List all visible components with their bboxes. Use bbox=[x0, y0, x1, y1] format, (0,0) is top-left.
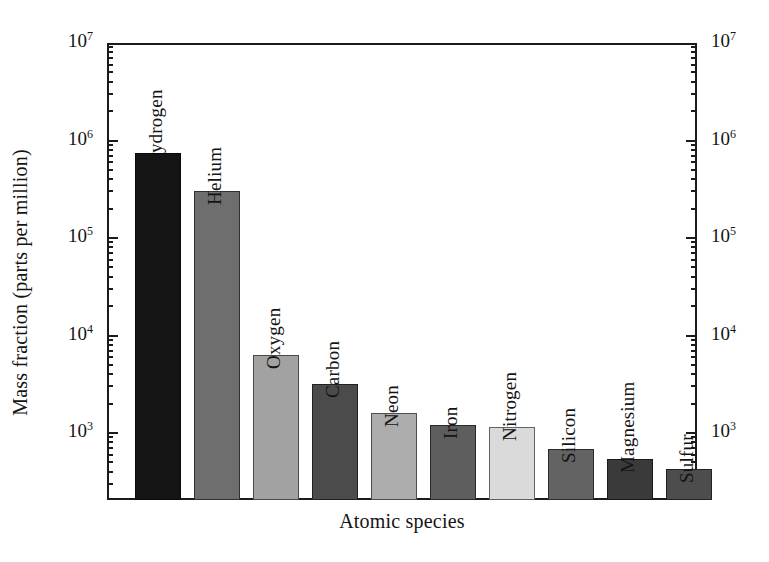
tick-mantissa: 10 bbox=[68, 225, 87, 246]
bar-label-iron: Iron bbox=[440, 407, 462, 439]
figure-root: 107107106106105105104104103103 HydrogenH… bbox=[0, 0, 769, 562]
tick-mantissa: 10 bbox=[68, 323, 87, 344]
y-axis-tick-label-left-4: 103 bbox=[0, 420, 93, 442]
tick-mantissa: 10 bbox=[711, 225, 730, 246]
bar-helium[interactable] bbox=[194, 191, 240, 500]
tick-exponent: 5 bbox=[87, 224, 93, 238]
tick-exponent: 7 bbox=[87, 29, 93, 43]
tick-exponent: 4 bbox=[87, 321, 93, 335]
x-axis-title: Atomic species bbox=[107, 510, 697, 533]
y-axis-tick-label-right-1: 106 bbox=[711, 128, 736, 150]
y-axis-tick-label-right-0: 107 bbox=[711, 30, 736, 52]
tick-exponent: 7 bbox=[730, 29, 736, 43]
tick-mantissa: 10 bbox=[68, 30, 87, 51]
bar-label-oxygen: Oxygen bbox=[263, 308, 285, 369]
tick-mantissa: 10 bbox=[68, 420, 87, 441]
bar-label-hydrogen: Hydrogen bbox=[145, 90, 167, 168]
bar-label-sulfur: Sulfur bbox=[676, 434, 698, 483]
tick-mantissa: 10 bbox=[711, 128, 730, 149]
bar-label-nitrogen: Nitrogen bbox=[499, 372, 521, 441]
tick-exponent: 3 bbox=[87, 419, 93, 433]
tick-exponent: 5 bbox=[730, 224, 736, 238]
tick-mantissa: 10 bbox=[711, 323, 730, 344]
y-axis-tick-label-right-4: 103 bbox=[711, 420, 736, 442]
bar-carbon[interactable] bbox=[312, 384, 358, 500]
tick-exponent: 6 bbox=[730, 126, 736, 140]
tick-exponent: 4 bbox=[730, 321, 736, 335]
y-axis-tick-label-left-0: 107 bbox=[0, 30, 93, 52]
y-axis-tick-label-right-2: 105 bbox=[711, 225, 736, 247]
bar-label-silicon: Silicon bbox=[558, 407, 580, 462]
tick-mantissa: 10 bbox=[68, 128, 87, 149]
bar-label-magnesium: Magnesium bbox=[617, 382, 639, 474]
y-axis-tick-label-left-1: 106 bbox=[0, 128, 93, 150]
bar-oxygen[interactable] bbox=[253, 355, 299, 500]
bar-label-helium: Helium bbox=[204, 147, 226, 205]
tick-mantissa: 10 bbox=[711, 420, 730, 441]
bar-hydrogen[interactable] bbox=[135, 153, 181, 500]
bar-label-carbon: Carbon bbox=[322, 341, 344, 398]
tick-mantissa: 10 bbox=[711, 30, 730, 51]
y-axis-tick-label-right-3: 104 bbox=[711, 323, 736, 345]
tick-exponent: 6 bbox=[87, 126, 93, 140]
bar-label-neon: Neon bbox=[381, 385, 403, 427]
y-axis-title: Mass fraction (parts per million) bbox=[9, 149, 32, 416]
bars-layer: HydrogenHeliumOxygenCarbonNeonIronNitrog… bbox=[107, 43, 697, 500]
tick-exponent: 3 bbox=[730, 419, 736, 433]
